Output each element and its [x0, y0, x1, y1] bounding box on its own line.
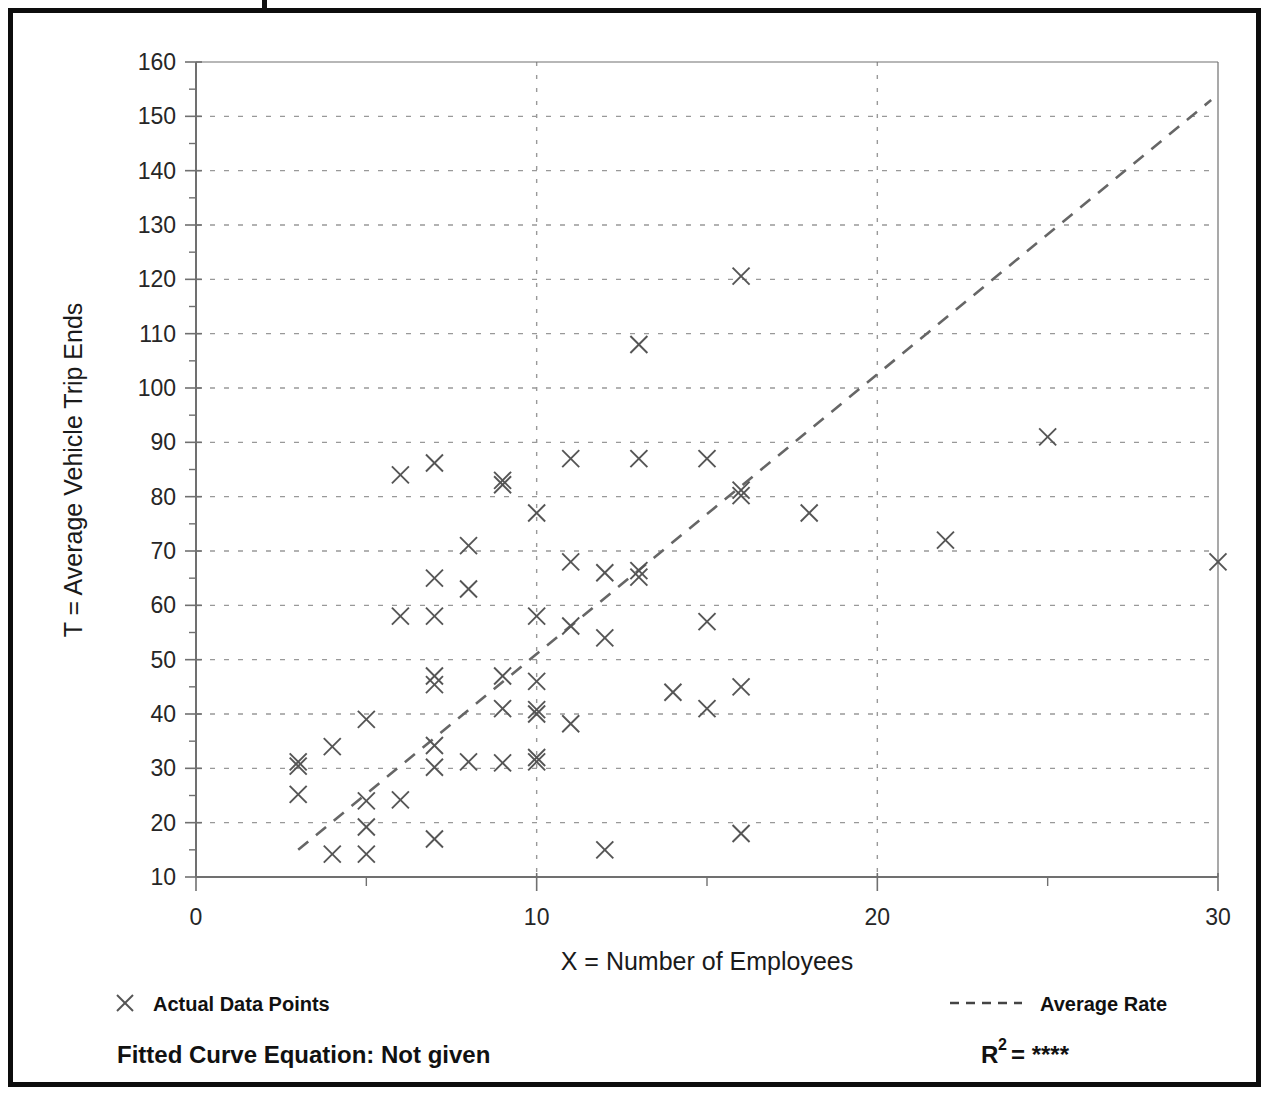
data-point-marker — [494, 472, 511, 489]
r-squared-prefix: R — [981, 1041, 998, 1068]
data-point-marker — [324, 846, 341, 863]
legend-data-points-label: Actual Data Points — [153, 993, 330, 1015]
x-axis-tick-label: 10 — [524, 904, 550, 930]
data-point-marker — [630, 336, 647, 353]
data-point-marker — [460, 581, 477, 598]
data-point-marker — [801, 504, 818, 521]
data-point-marker — [324, 738, 341, 755]
fitted-curve-equation: Fitted Curve Equation: Not given — [117, 1041, 490, 1068]
data-point-marker — [426, 830, 443, 847]
data-point-marker — [1039, 428, 1056, 445]
y-axis-tick-label: 40 — [150, 701, 176, 727]
y-axis-tick-label: 140 — [138, 158, 176, 184]
data-point-marker — [494, 700, 511, 717]
y-axis-tick-label: 110 — [139, 321, 176, 347]
r-squared-block: R 2 = **** — [981, 1036, 1070, 1068]
y-axis-tick-label: 70 — [150, 538, 176, 564]
y-axis-tick-label: 60 — [150, 592, 176, 618]
figure-page: 1020304050607080901001101201301401501600… — [0, 0, 1273, 1099]
data-point-marker — [596, 629, 613, 646]
data-point-marker — [596, 564, 613, 581]
data-point-marker — [664, 684, 681, 701]
data-point-marker — [358, 792, 375, 809]
y-axis-tick-label: 100 — [138, 375, 176, 401]
data-point-marker — [426, 759, 443, 776]
data-point-marker — [290, 786, 307, 803]
data-point-marker — [562, 715, 579, 732]
axis-layer — [185, 62, 1218, 891]
r-squared-exponent: 2 — [998, 1036, 1007, 1053]
data-point-marker — [562, 450, 579, 467]
data-point-marker — [392, 608, 409, 625]
y-axis-tick-label: 10 — [150, 864, 176, 890]
x-axis-title: X = Number of Employees — [561, 947, 854, 975]
data-point-marker — [426, 570, 443, 587]
data-point-marker — [937, 532, 954, 549]
y-axis-tick-label: 20 — [150, 810, 176, 836]
trend-line-layer — [298, 100, 1211, 850]
data-point-marker — [699, 450, 716, 467]
data-point-marker — [358, 819, 375, 836]
data-point-marker — [426, 454, 443, 471]
data-point-marker — [528, 706, 545, 723]
data-point-marker — [426, 667, 443, 684]
data-point-marker — [699, 613, 716, 630]
data-points-layer — [290, 268, 1227, 863]
data-point-marker — [733, 268, 750, 285]
y-axis-tick-label: 160 — [138, 49, 176, 75]
data-point-marker — [562, 553, 579, 570]
scatter-chart: 1020304050607080901001101201301401501600… — [0, 0, 1273, 1099]
data-point-marker — [562, 617, 579, 634]
data-point-marker — [733, 825, 750, 842]
y-axis-tick-label: 130 — [138, 212, 176, 238]
data-point-marker — [596, 841, 613, 858]
data-point-marker — [426, 676, 443, 693]
data-point-marker — [630, 450, 647, 467]
x-axis-tick-label: 0 — [190, 904, 203, 930]
data-point-marker — [699, 700, 716, 717]
legend-average-rate: Average Rate — [950, 993, 1167, 1015]
y-axis-tick-label: 90 — [150, 429, 176, 455]
data-point-marker — [426, 608, 443, 625]
r-squared-value: = **** — [1011, 1041, 1070, 1068]
x-axis-tick-label: 30 — [1205, 904, 1231, 930]
data-point-marker — [494, 476, 511, 493]
grid-layer — [196, 62, 1218, 877]
y-axis-tick-label: 30 — [150, 755, 176, 781]
y-axis-tick-label: 80 — [150, 484, 176, 510]
y-axis-tick-label: 50 — [150, 647, 176, 673]
data-point-marker — [290, 758, 307, 775]
data-point-marker — [392, 466, 409, 483]
data-point-marker — [733, 678, 750, 695]
y-axis-tick-label: 150 — [138, 103, 176, 129]
legend-average-rate-label: Average Rate — [1040, 993, 1167, 1015]
y-axis-tick-label: 120 — [138, 266, 176, 292]
legend-data-points: Actual Data Points — [117, 993, 330, 1015]
data-point-marker — [460, 537, 477, 554]
data-point-marker — [460, 753, 477, 770]
data-point-marker — [426, 737, 443, 754]
x-marker-icon — [117, 995, 133, 1011]
y-axis-title: T = Average Vehicle Trip Ends — [59, 303, 87, 638]
data-point-marker — [392, 791, 409, 808]
average-rate-trend-line — [298, 100, 1211, 850]
data-point-marker — [358, 846, 375, 863]
data-point-marker — [494, 754, 511, 771]
x-axis-tick-label: 20 — [865, 904, 891, 930]
